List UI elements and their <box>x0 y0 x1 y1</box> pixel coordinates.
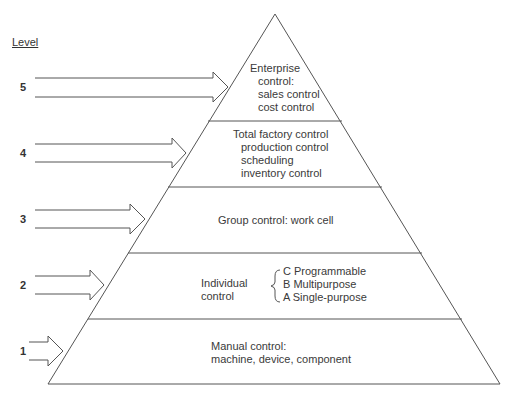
level2-label-line1: Individual <box>201 277 247 290</box>
level4-line4: inventory control <box>241 167 322 180</box>
arrow-level-5 <box>35 72 228 102</box>
level-number-2: 2 <box>20 279 26 291</box>
level2-subitem-c: C Programmable <box>283 265 366 278</box>
level-number-1: 1 <box>20 345 26 357</box>
level5-line4: cost control <box>258 101 314 114</box>
level4-line2: production control <box>241 141 328 154</box>
level5-line1: Enterprise <box>250 62 300 75</box>
level5-line3: sales control <box>258 88 320 101</box>
level-number-5: 5 <box>20 81 26 93</box>
arrow-level-3 <box>35 204 145 234</box>
level4-line3: scheduling <box>241 154 294 167</box>
level-heading: Level <box>12 36 38 48</box>
level2-subitem-a: A Single-purpose <box>283 291 367 304</box>
level2-subitem-b: B Multipurpose <box>283 278 356 291</box>
level2-label-line2: control <box>201 290 234 303</box>
level-number-3: 3 <box>20 213 26 225</box>
arrow-level-4 <box>35 138 186 168</box>
arrow-level-1 <box>29 336 63 366</box>
level-number-4: 4 <box>20 147 26 159</box>
level4-line1: Total factory control <box>233 128 328 141</box>
level5-line2: control: <box>258 75 294 88</box>
level3-line1: Group control: work cell <box>218 214 334 227</box>
level1-line1: Manual control: <box>211 340 286 353</box>
level1-line2: machine, device, component <box>211 353 351 366</box>
brace-icon <box>271 270 280 302</box>
arrow-level-2 <box>35 270 104 300</box>
